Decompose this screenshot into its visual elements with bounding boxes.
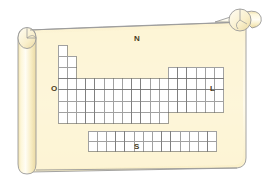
label-bottom: S	[134, 143, 140, 151]
scroll-illustration	[0, 0, 272, 189]
left-roll-body	[18, 28, 36, 174]
table-row-6	[58, 101, 224, 112]
label-top: N	[134, 35, 140, 43]
table-footer-block	[88, 131, 217, 151]
table-row-4	[58, 79, 224, 90]
table-row-1	[58, 45, 67, 56]
scroll-figure: N O L S	[0, 0, 272, 189]
label-right: L	[210, 85, 215, 93]
scroll-roll-left	[18, 28, 36, 175]
label-left: O	[51, 85, 58, 93]
table-row-5	[58, 90, 224, 101]
table-row-2	[58, 56, 76, 67]
table-row-7	[58, 112, 168, 123]
